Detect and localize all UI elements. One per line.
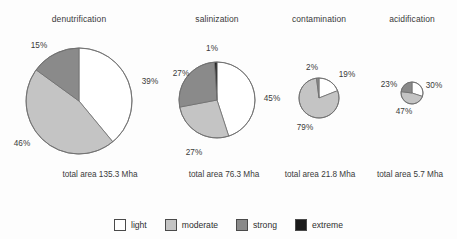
panel-total-area-denutrification: total area 135.3 Mha [62, 170, 137, 179]
pct-label-salinization-1: 27% [186, 148, 202, 157]
legend-swatch-light [114, 219, 126, 231]
panel-total-area-salinization: total area 76.3 Mha [189, 170, 260, 179]
pct-label-salinization-3: 1% [206, 44, 218, 53]
pct-label-contamination-0: 19% [339, 70, 355, 79]
panel-total-area-contamination: total area 21.8 Mha [285, 170, 356, 179]
pie-acidification [398, 79, 426, 107]
legend-label-extreme: extreme [312, 220, 343, 230]
legend-label-strong: strong [253, 220, 277, 230]
legend-swatch-extreme [295, 219, 307, 231]
pct-label-acidification-0: 30% [426, 81, 442, 90]
panel-title-denutrification: denutrification [52, 14, 106, 24]
pct-label-contamination-1: 79% [297, 123, 313, 132]
panel-title-acidification: acidification [389, 14, 435, 24]
panel-total-area-acidification: total area 5.7 Mha [377, 170, 443, 179]
pct-label-salinization-2: 27% [173, 69, 189, 78]
pie-contamination [296, 75, 342, 121]
panel-title-salinization: salinization [195, 14, 238, 24]
legend-swatch-strong [236, 219, 248, 231]
pie-denutrification [23, 45, 135, 157]
pct-label-acidification-2: 23% [381, 80, 397, 89]
pct-label-denutrification-2: 15% [31, 41, 47, 50]
pct-label-salinization-0: 45% [264, 94, 280, 103]
pct-label-denutrification-1: 46% [14, 139, 30, 148]
legend-item-light: light [114, 219, 147, 231]
legend-label-light: light [131, 220, 147, 230]
pct-label-denutrification-0: 39% [142, 77, 158, 86]
legend-item-strong: strong [236, 219, 277, 231]
legend-item-extreme: extreme [295, 219, 343, 231]
legend-label-moderate: moderate [182, 220, 218, 230]
legend-swatch-moderate [165, 219, 177, 231]
chart-legend: light moderate strong extreme [0, 219, 457, 231]
panel-title-contamination: contamination [292, 14, 346, 24]
pie-chart-figure: denutrificationtotal area 135.3 Mha39%46… [0, 0, 457, 239]
pct-label-contamination-2: 2% [306, 63, 318, 72]
pct-label-acidification-1: 47% [396, 107, 412, 116]
legend-item-moderate: moderate [165, 219, 218, 231]
